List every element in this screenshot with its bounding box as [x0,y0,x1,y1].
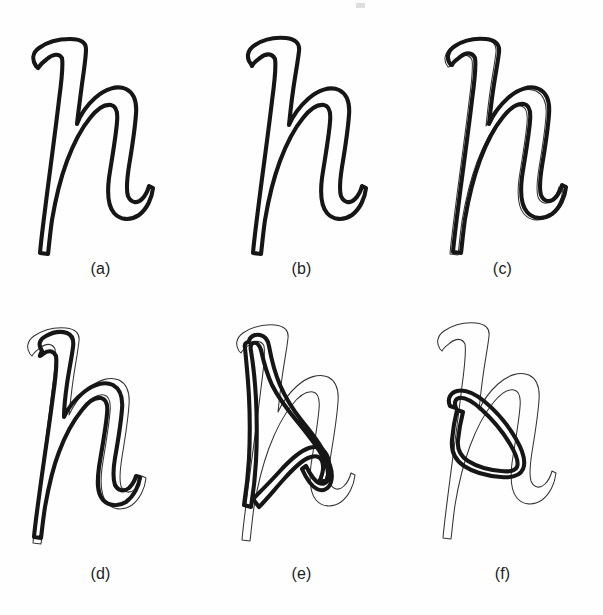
panel-a: (a) [0,8,201,315]
panel-f: (f) [402,313,603,615]
h-contour-evolved-d [34,332,140,538]
panel-e-artwork [201,313,402,575]
h-outline-original-f [438,323,556,539]
panel-c-artwork [402,8,603,270]
h-outline-original-a [33,39,153,254]
panel-e-label: (e) [201,565,402,583]
figure-canvas: (a) (b) (c) [0,0,603,615]
panel-b-artwork [201,8,402,270]
panel-a-label: (a) [0,260,201,278]
panel-a-artwork [0,8,201,270]
h-outline-smoothed-b [248,38,366,254]
panel-d-label: (d) [0,565,201,583]
panel-d: (d) [0,313,201,615]
panel-b-label: (b) [201,260,402,278]
panel-b: (b) [201,8,402,315]
panel-c: (c) [402,8,603,315]
panel-c-label: (c) [402,260,603,278]
h-outline-original-e [237,325,355,541]
panel-e: (e) [201,313,402,615]
panel-f-label: (f) [402,565,603,583]
panel-d-artwork [0,313,201,575]
h-outline-smoothed-c [448,39,566,253]
panel-f-artwork [402,313,603,575]
h-contour-evolved-e [244,335,332,507]
